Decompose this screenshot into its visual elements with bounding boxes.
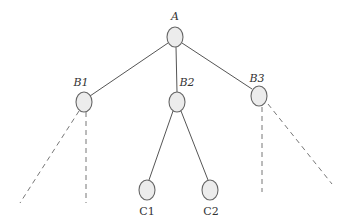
edge-b2-c2	[181, 111, 208, 180]
edge-b2-c1	[149, 111, 173, 180]
edge-a-b2	[176, 47, 177, 92]
label-c1: C1	[139, 205, 154, 218]
nodes	[76, 27, 267, 200]
node-b1	[76, 92, 92, 112]
dashed-edge-b3-right	[268, 104, 332, 184]
node-b3	[251, 86, 267, 106]
label-a: A	[170, 10, 179, 23]
node-c1	[139, 180, 155, 200]
dashed-edge-b1-left	[20, 111, 79, 203]
node-a	[167, 27, 183, 47]
edges	[90, 43, 252, 180]
label-b2: B2	[178, 76, 194, 89]
label-b3: B3	[248, 72, 264, 85]
edge-a-b1	[90, 43, 168, 96]
tree-diagram: A B1 B2 B3 C1 C2	[0, 0, 352, 223]
node-b2	[169, 92, 185, 112]
label-c2: C2	[203, 205, 218, 218]
label-b1: B1	[72, 76, 88, 89]
dashed-edges	[20, 104, 332, 203]
node-c2	[202, 180, 218, 200]
